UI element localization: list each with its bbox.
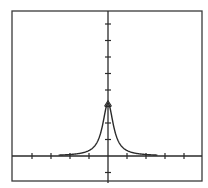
plot-area [0,0,208,188]
